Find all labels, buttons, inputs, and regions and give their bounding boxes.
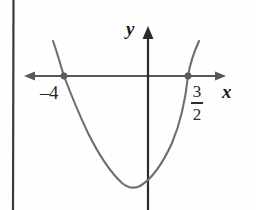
x-axis-right-arrow-icon [215, 72, 226, 81]
fraction-three-halves: 3 2 [191, 83, 204, 124]
fraction-numerator: 3 [191, 83, 204, 102]
x-axis-left-arrow-icon [24, 72, 35, 81]
x-intercept-label-right: 3 2 [185, 83, 209, 124]
y-axis-label: y [126, 19, 134, 38]
parabola-curve [53, 41, 199, 188]
x-axis-label: x [222, 82, 232, 101]
x-intercept-point-right [185, 73, 192, 80]
fraction-denominator: 2 [191, 105, 204, 124]
fraction-bar [191, 102, 204, 104]
x-intercept-label-left: –4 [40, 83, 58, 102]
y-axis-up-arrow-icon [143, 26, 154, 39]
x-axis [24, 72, 226, 81]
figure-canvas: y x –4 3 2 [0, 0, 256, 210]
page-edge-line [13, 0, 14, 210]
x-intercept-point-left [61, 73, 68, 80]
